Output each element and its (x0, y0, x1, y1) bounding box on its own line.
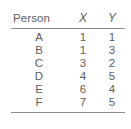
cell-person: C (11, 57, 67, 70)
cell-x: 3 (67, 57, 99, 70)
cell-x: 1 (67, 44, 99, 57)
cell-y: 2 (99, 57, 125, 70)
cell-y: 4 (99, 83, 125, 96)
table-header: Person X Y (11, 10, 125, 29)
cell-person: D (11, 70, 67, 83)
table-body: A 1 1 B 1 3 C 3 2 D 4 5 E 6 4 (11, 29, 125, 113)
table-row: A 1 1 (11, 29, 125, 45)
cell-y: 5 (99, 96, 125, 113)
column-header-x: X (67, 10, 99, 29)
cell-person: F (11, 96, 67, 113)
cell-y: 3 (99, 44, 125, 57)
person-xy-table: Person X Y A 1 1 B 1 3 C 3 2 D (11, 10, 125, 113)
cell-person: E (11, 83, 67, 96)
table-row: E 6 4 (11, 83, 125, 96)
table-row: D 4 5 (11, 70, 125, 83)
column-header-y: Y (99, 10, 125, 29)
data-table-container: Person X Y A 1 1 B 1 3 C 3 2 D (0, 0, 131, 129)
table-row: F 7 5 (11, 96, 125, 113)
cell-x: 1 (67, 29, 99, 45)
cell-x: 7 (67, 96, 99, 113)
cell-y: 5 (99, 70, 125, 83)
cell-x: 6 (67, 83, 99, 96)
cell-x: 4 (67, 70, 99, 83)
column-header-person: Person (11, 10, 67, 29)
table-header-row: Person X Y (11, 10, 125, 29)
cell-y: 1 (99, 29, 125, 45)
table-row: C 3 2 (11, 57, 125, 70)
table-row: B 1 3 (11, 44, 125, 57)
cell-person: A (11, 29, 67, 45)
cell-person: B (11, 44, 67, 57)
